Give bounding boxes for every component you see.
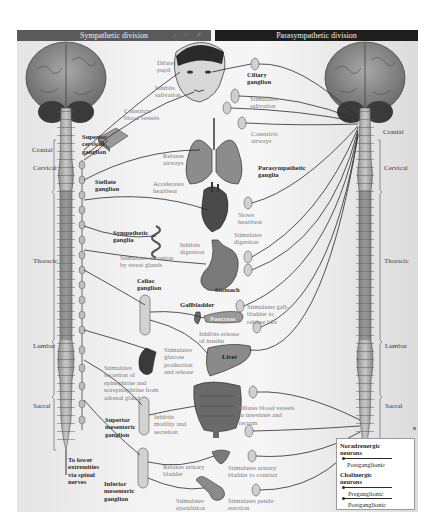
legend-cholinergic-title: Cholinergic neurons (340, 471, 372, 485)
effect-contracts-bladder: Stimulates urinary bladder to contract (228, 464, 277, 479)
neuron-legend: Noradrenergic neurons Postganglionic Cho… (336, 438, 415, 510)
effect-stimulates-salivation: Stimulates salivation (250, 95, 278, 110)
effect-glucose-release: Stimulates glucose production and releas… (164, 346, 193, 376)
effect-constricts-blood-vessels: Constricts blood vessels (124, 107, 159, 122)
effect-constricts-airways: Constricts airways (251, 130, 278, 145)
left-spinal-cord-icon (57, 108, 75, 475)
legend-noradrenergic-post: Postganglionic (347, 461, 385, 468)
liver-label: Liver (222, 353, 237, 360)
effect-stimulates-digestion: Stimulates digestion (234, 231, 262, 246)
stellate-ganglion-label: Stellate ganglion (95, 178, 119, 193)
superior-cervical-ganglion-label: Superior cervical ganglion (82, 133, 107, 155)
effect-adrenal-secretion: Stimulates secretion of epinephrine and … (104, 364, 158, 401)
right-region-cranial: Cranial (383, 128, 404, 136)
effect-slows-heartbeat: Slows heartbeat (238, 211, 262, 226)
bladder-icon (212, 450, 230, 464)
legend-postganglionic-line (343, 458, 392, 459)
effect-dilates-blood-vessels: Dilates blood vessels in intestines and … (239, 404, 295, 426)
left-region-thoracic: Thoracic (33, 257, 58, 265)
effect-dilates-pupil: Dilates pupil (157, 59, 176, 74)
stomach-label: Stomach (215, 286, 240, 293)
inferior-mesenteric-ganglion-label: Inferior mesenteric ganglion (104, 480, 134, 502)
effect-relaxes-bladder: Relaxes urinary bladder (163, 463, 205, 478)
stomach-icon (201, 240, 238, 291)
sympathetic-chain-ganglia (79, 160, 85, 430)
sympathetic-ganglia-label: Sympathetic ganglia (113, 229, 148, 244)
left-region-cranial: Cranial (32, 146, 53, 154)
left-region-cervical: Cervical (33, 164, 57, 172)
head-icon (174, 42, 225, 102)
legend-postganglionic-line-2 (343, 498, 392, 499)
effect-gallbladder-bile: Stimulates gall- bladder to release bile (247, 303, 289, 325)
lungs-icon (186, 118, 242, 184)
right-region-lumbar: Lumbar (385, 342, 407, 350)
gallbladder-icon (194, 312, 200, 324)
celiac-ganglion-label: Celiac ganglion (137, 277, 161, 292)
effect-relaxes-airways: Relaxes airways (163, 152, 184, 167)
lower-extremities-label: To lower extremities via spinal nerves (68, 456, 99, 486)
superior-mesenteric-ganglion-icon (139, 397, 149, 435)
pancreas-label: Pancreas (210, 315, 236, 322)
effect-accelerates-heartbeat: Accelerates heartbeat (153, 180, 184, 195)
right-region-cervical: Cervical (384, 164, 408, 172)
inferior-mesenteric-ganglion-icon (138, 448, 148, 488)
legend-noradrenergic-title: Noradrenergic neurons (340, 442, 380, 456)
effect-inhibits-salivation: Inhibits salivation (155, 84, 181, 99)
celiac-ganglion-icon (140, 295, 150, 335)
effect-penile-erection: Stimulates penile erection (228, 497, 274, 512)
right-spinal-cord-icon (356, 108, 374, 450)
effect-ejaculation: Stimulates ejaculation (176, 497, 205, 512)
ciliary-ganglion-label: Ciliary ganglion (247, 71, 271, 86)
ciliary-ganglion-icon (251, 58, 259, 70)
legend-cholinergic-pre: Preganglionic (348, 490, 384, 497)
left-region-lumbar: Lumbar (33, 342, 55, 350)
right-region-thoracic: Thoracic (384, 257, 409, 265)
left-region-sacral: Sacral (33, 402, 51, 410)
effect-inhibits-digestion: Inhibits digestion (180, 241, 204, 256)
superior-mesenteric-ganglion-label: Superior mesenteric ganglion (105, 416, 135, 438)
intestines-icon (194, 382, 242, 438)
legend-preganglionic-line (343, 487, 392, 488)
marker-dot (413, 427, 416, 430)
effect-inhibits-motility: Inhibits motility and secretion (154, 413, 186, 435)
gallbladder-label: Gallbladder (180, 301, 214, 308)
legend-cholinergic-post: Postganglionic (348, 501, 386, 508)
right-region-sacral: Sacral (385, 402, 403, 410)
effect-sweat-glands: Stimulates secretion by sweat glands (120, 254, 173, 269)
heart-icon (202, 182, 228, 232)
effect-inhibits-insulin: Inhibits release of insulin (199, 330, 239, 345)
parasympathetic-ganglia-label: Parasympathetic ganglia (258, 164, 306, 179)
